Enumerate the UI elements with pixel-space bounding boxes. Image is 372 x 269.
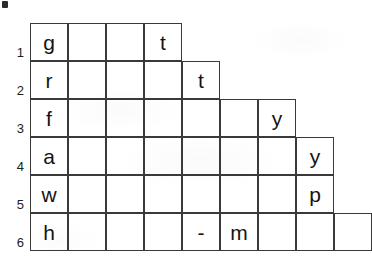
grid-cell-r3c3[interactable] bbox=[106, 99, 144, 137]
grid-cell-r2c3[interactable] bbox=[106, 61, 144, 99]
grid-cell-r5c5[interactable] bbox=[182, 175, 220, 213]
grid-cell-r6c4[interactable] bbox=[144, 213, 182, 251]
grid-cell-r6c8[interactable] bbox=[296, 213, 334, 251]
grid-cell-r5c3[interactable] bbox=[106, 175, 144, 213]
grid-cell-r6c1[interactable] bbox=[30, 213, 68, 251]
grid-cell-r4c8[interactable] bbox=[296, 137, 334, 175]
grid-cell-r2c1[interactable] bbox=[30, 61, 68, 99]
grid-cell-r2c2[interactable] bbox=[68, 61, 106, 99]
grid-cell-r5c4[interactable] bbox=[144, 175, 182, 213]
grid-cell-r6c3[interactable] bbox=[106, 213, 144, 251]
grid-cell-r5c1[interactable] bbox=[30, 175, 68, 213]
grid-cell-r3c1[interactable] bbox=[30, 99, 68, 137]
row-label-6: 6 bbox=[6, 236, 24, 249]
grid-cell-r6c7[interactable] bbox=[258, 213, 296, 251]
grid-cell-r5c7[interactable] bbox=[258, 175, 296, 213]
grid-cell-r6c2[interactable] bbox=[68, 213, 106, 251]
grid-cell-r1c1[interactable] bbox=[30, 23, 68, 61]
row-label-3: 3 bbox=[6, 122, 24, 135]
grid-cell-r5c2[interactable] bbox=[68, 175, 106, 213]
grid-cell-r4c6[interactable] bbox=[220, 137, 258, 175]
grid-cell-r5c6[interactable] bbox=[220, 175, 258, 213]
grid-cell-r1c4[interactable] bbox=[144, 23, 182, 61]
grid-cell-r6c6[interactable] bbox=[220, 213, 258, 251]
grid-cell-r3c6[interactable] bbox=[220, 99, 258, 137]
grid-cell-r2c5[interactable] bbox=[182, 61, 220, 99]
grid-cell-r6c5[interactable] bbox=[182, 213, 220, 251]
grid-cell-r1c2[interactable] bbox=[68, 23, 106, 61]
grid-cell-r4c1[interactable] bbox=[30, 137, 68, 175]
grid-cell-r3c7[interactable] bbox=[258, 99, 296, 137]
grid-cell-r3c2[interactable] bbox=[68, 99, 106, 137]
grid-cell-r4c2[interactable] bbox=[68, 137, 106, 175]
row-label-5: 5 bbox=[6, 198, 24, 211]
row-label-2: 2 bbox=[6, 84, 24, 97]
row-label-1: 1 bbox=[6, 46, 24, 59]
grid-cell-r3c4[interactable] bbox=[144, 99, 182, 137]
grid-cell-r4c4[interactable] bbox=[144, 137, 182, 175]
grid-cell-r2c4[interactable] bbox=[144, 61, 182, 99]
grid-cell-r4c3[interactable] bbox=[106, 137, 144, 175]
grid-cell-r1c3[interactable] bbox=[106, 23, 144, 61]
grid-cell-r5c8[interactable] bbox=[296, 175, 334, 213]
grid-cell-r4c7[interactable] bbox=[258, 137, 296, 175]
grid-cell-r6c9[interactable] bbox=[334, 213, 372, 251]
row-label-4: 4 bbox=[6, 160, 24, 173]
grid-cell-r4c5[interactable] bbox=[182, 137, 220, 175]
grid-cell-r3c5[interactable] bbox=[182, 99, 220, 137]
